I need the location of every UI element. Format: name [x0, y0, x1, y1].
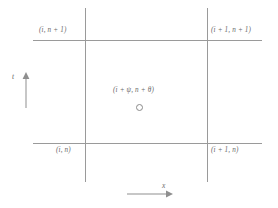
grid-line-vertical-left — [85, 8, 86, 182]
center-point-label: (i + ψ, n + θ) — [113, 86, 154, 94]
center-point-marker — [136, 104, 143, 111]
axis-label-t: t — [12, 72, 14, 81]
axis-arrow-vertical — [20, 72, 32, 108]
grid-line-horizontal-bottom — [33, 143, 262, 144]
node-label-bottom-left: (i, n) — [56, 146, 71, 154]
grid-cell-diagram: (i, n + 1) (i + 1, n + 1) (i, n) (i + 1,… — [0, 0, 278, 208]
axis-arrow-horizontal — [127, 188, 173, 200]
node-label-top-left: (i, n + 1) — [39, 26, 67, 34]
node-label-top-right: (i + 1, n + 1) — [211, 26, 251, 34]
node-label-bottom-right: (i + 1, n) — [211, 146, 239, 154]
grid-line-vertical-right — [207, 8, 208, 182]
grid-line-horizontal-top — [33, 40, 262, 41]
